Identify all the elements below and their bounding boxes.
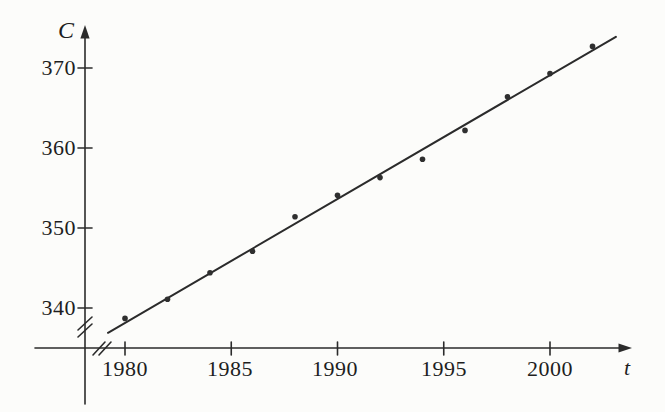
- scatter-with-regression-figure: C t 370 360 350 340 1980 1985 1990 1995 …: [0, 0, 665, 412]
- data-point-1992: [377, 175, 383, 181]
- chart-canvas: [0, 0, 665, 412]
- data-point-1996: [462, 128, 468, 134]
- data-point-1982: [165, 296, 171, 302]
- data-point-2002: [590, 44, 596, 50]
- data-point-1988: [292, 214, 298, 220]
- data-point-1980: [122, 316, 128, 322]
- data-point-1990: [335, 192, 341, 198]
- data-point-1986: [250, 248, 256, 254]
- y-axis-label: C: [52, 17, 80, 44]
- x-axis-label: t: [613, 355, 641, 381]
- data-point-1994: [420, 156, 426, 162]
- x-tick-label-2000: 2000: [505, 356, 595, 382]
- y-tick-label-370: 370: [24, 55, 76, 81]
- x-tick-label-1995: 1995: [399, 356, 489, 382]
- regression-line: [108, 37, 616, 333]
- x-axis-arrowhead: [619, 343, 633, 352]
- data-point-2000: [547, 71, 553, 77]
- x-tick-label-1990: 1990: [290, 356, 380, 382]
- data-point-1984: [207, 270, 213, 276]
- y-tick-label-360: 360: [24, 135, 76, 161]
- y-tick-label-350: 350: [24, 215, 76, 241]
- x-tick-label-1980: 1980: [80, 356, 170, 382]
- data-point-1998: [505, 94, 511, 100]
- x-tick-label-1985: 1985: [185, 356, 275, 382]
- y-tick-label-340: 340: [24, 295, 76, 321]
- y-axis-arrowhead: [80, 25, 89, 39]
